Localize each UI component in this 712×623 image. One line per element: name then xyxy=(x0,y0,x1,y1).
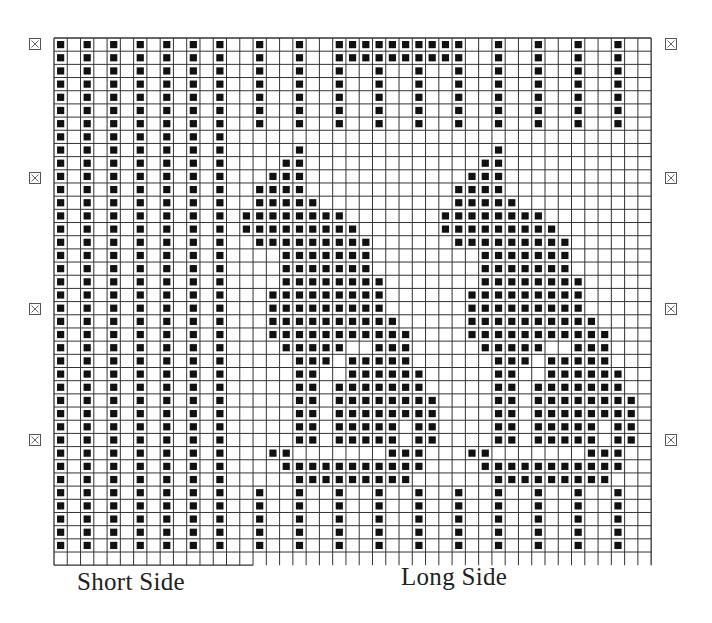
filled-stitch xyxy=(495,436,502,443)
filled-stitch xyxy=(535,67,542,74)
filled-stitch xyxy=(137,252,144,259)
filled-stitch xyxy=(415,397,422,404)
filled-stitch xyxy=(415,529,422,536)
filled-stitch xyxy=(495,67,502,74)
filled-stitch xyxy=(415,41,422,48)
filled-stitch xyxy=(283,278,290,285)
filled-stitch xyxy=(349,226,356,233)
filled-stitch xyxy=(110,226,117,233)
filled-stitch xyxy=(601,397,608,404)
filled-stitch xyxy=(376,502,383,509)
filled-stitch xyxy=(84,423,91,430)
filled-stitch xyxy=(190,370,197,377)
filled-stitch xyxy=(322,252,329,259)
filled-stitch xyxy=(561,436,568,443)
filled-stitch xyxy=(535,397,542,404)
filled-stitch xyxy=(216,81,223,88)
filled-stitch xyxy=(163,384,170,391)
filled-stitch xyxy=(389,318,396,325)
filled-stitch xyxy=(84,489,91,496)
filled-stitch xyxy=(322,463,329,470)
filled-stitch xyxy=(190,476,197,483)
filled-stitch xyxy=(495,318,502,325)
filled-stitch xyxy=(296,423,303,430)
filled-stitch xyxy=(163,357,170,364)
filled-stitch xyxy=(588,436,595,443)
filled-stitch xyxy=(256,67,263,74)
filled-stitch xyxy=(137,107,144,114)
filled-stitch xyxy=(137,489,144,496)
filled-stitch xyxy=(508,291,515,298)
filled-stitch xyxy=(190,529,197,536)
filled-stitch xyxy=(137,370,144,377)
filled-stitch xyxy=(455,226,462,233)
filled-stitch xyxy=(495,410,502,417)
filled-stitch xyxy=(57,450,64,457)
filled-stitch xyxy=(455,489,462,496)
filled-stitch xyxy=(110,370,117,377)
filled-stitch xyxy=(163,463,170,470)
filled-stitch xyxy=(110,133,117,140)
filled-stitch xyxy=(614,515,621,522)
filled-stitch xyxy=(561,305,568,312)
filled-stitch xyxy=(137,146,144,153)
filled-stitch xyxy=(614,529,621,536)
filled-stitch xyxy=(415,423,422,430)
filled-stitch xyxy=(495,305,502,312)
filled-stitch xyxy=(283,318,290,325)
filled-stitch xyxy=(336,81,343,88)
filled-stitch xyxy=(468,173,475,180)
filled-stitch xyxy=(628,423,635,430)
filled-stitch xyxy=(349,423,356,430)
filled-stitch xyxy=(508,384,515,391)
filled-stitch xyxy=(110,384,117,391)
filled-stitch xyxy=(535,252,542,259)
filled-stitch xyxy=(614,370,621,377)
filled-stitch xyxy=(57,344,64,351)
filled-stitch xyxy=(508,463,515,470)
filled-stitch xyxy=(575,94,582,101)
filled-stitch xyxy=(468,318,475,325)
filled-stitch xyxy=(216,146,223,153)
filled-stitch xyxy=(349,410,356,417)
filled-stitch xyxy=(362,54,369,61)
filled-stitch xyxy=(336,463,343,470)
filled-stitch xyxy=(296,239,303,246)
filled-stitch xyxy=(468,212,475,219)
filled-stitch xyxy=(614,450,621,457)
filled-stitch xyxy=(110,515,117,522)
filled-stitch xyxy=(495,41,502,48)
filled-stitch xyxy=(495,278,502,285)
filled-stitch xyxy=(614,436,621,443)
filled-stitch xyxy=(216,397,223,404)
filled-stitch xyxy=(57,331,64,338)
left-repeat-marker-icon xyxy=(29,303,41,315)
filled-stitch xyxy=(57,146,64,153)
filled-stitch xyxy=(575,476,582,483)
filled-stitch xyxy=(628,436,635,443)
filled-stitch xyxy=(190,515,197,522)
filled-stitch xyxy=(163,450,170,457)
filled-stitch xyxy=(296,54,303,61)
filled-stitch xyxy=(508,397,515,404)
filled-stitch xyxy=(296,397,303,404)
filled-stitch xyxy=(190,173,197,180)
filled-stitch xyxy=(495,370,502,377)
filled-stitch xyxy=(137,397,144,404)
filled-stitch xyxy=(575,305,582,312)
filled-stitch xyxy=(137,305,144,312)
filled-stitch xyxy=(495,291,502,298)
filled-stitch xyxy=(548,265,555,272)
filled-stitch xyxy=(548,239,555,246)
filled-stitch xyxy=(57,542,64,549)
filled-stitch xyxy=(336,54,343,61)
filled-stitch xyxy=(283,160,290,167)
filled-stitch xyxy=(216,54,223,61)
filled-stitch xyxy=(495,239,502,246)
filled-stitch xyxy=(190,436,197,443)
filled-stitch xyxy=(84,357,91,364)
filled-stitch xyxy=(190,199,197,206)
filled-stitch xyxy=(376,107,383,114)
filled-stitch xyxy=(508,476,515,483)
filled-stitch xyxy=(376,463,383,470)
